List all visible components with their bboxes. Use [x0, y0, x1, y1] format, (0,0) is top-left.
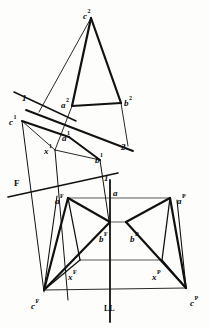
- edge-aF-bF: [68, 198, 110, 222]
- label-b1-base: b: [95, 155, 100, 165]
- label-bF-superscript: F: [104, 231, 108, 237]
- label-c2-superscript: 2: [87, 8, 90, 14]
- label-c1: c1: [9, 112, 16, 128]
- label-a-plain-base: a: [113, 188, 118, 198]
- label-a-plain: a: [113, 183, 118, 199]
- label-c1-superscript: 1: [13, 114, 16, 120]
- reference-lines-group: [8, 92, 133, 322]
- label-xP: xP: [152, 267, 161, 283]
- label-x1-base: x: [44, 146, 49, 156]
- edge-aF-xF: [68, 198, 80, 260]
- label-a1-superscript: 1: [67, 130, 70, 136]
- label-F-trace-base: F: [14, 178, 20, 188]
- label-aP-base: a: [177, 196, 182, 206]
- label-bP-base: b: [130, 234, 135, 244]
- construction-base-F-P: [44, 288, 186, 290]
- label-one-upper: 1: [22, 88, 27, 104]
- label-aF: aF: [55, 191, 64, 207]
- label-b2-superscript: 2: [129, 95, 132, 101]
- label-LL: LL: [104, 298, 115, 314]
- label-xP-superscript: P: [157, 269, 161, 275]
- label-xF-base: x: [68, 272, 73, 282]
- edge-aP-xP: [162, 198, 170, 260]
- label-bF: bF: [99, 229, 108, 245]
- label-b2: b2: [124, 93, 132, 109]
- label-cP-superscript: P: [194, 295, 198, 301]
- view-1-group: [22, 121, 100, 160]
- label-F-trace: F: [14, 173, 20, 189]
- label-LL-base: LL: [104, 304, 115, 313]
- figure-drawing-canvas: [0, 0, 210, 327]
- projector-c1-cF: [22, 121, 44, 292]
- label-two: 2: [121, 137, 126, 153]
- label-x1: x1: [44, 141, 52, 157]
- label-a2-superscript: 2: [66, 97, 69, 103]
- label-one-lower-base: 1: [104, 173, 109, 183]
- edge-c2-b2: [91, 18, 121, 103]
- label-c2: c2: [83, 6, 90, 22]
- edge-aF-left-cF: [44, 196, 57, 290]
- label-bP-superscript: P: [135, 231, 139, 237]
- label-one-upper-base: 1: [22, 93, 27, 103]
- label-aP: aP: [177, 191, 186, 207]
- label-cF: cF: [31, 296, 39, 312]
- label-b1: b1: [95, 150, 103, 166]
- label-xP-base: x: [152, 272, 157, 282]
- label-x1-superscript: 1: [49, 143, 52, 149]
- edge-aP-bP: [126, 198, 170, 222]
- label-two-base: 2: [121, 142, 126, 152]
- descriptive-geometry-figure: c2a2b21c1a1x1b12F1aaFaPbFbPxFxPcFcPLL: [0, 0, 210, 327]
- view-2-group: [39, 18, 128, 150]
- label-cP: cP: [190, 293, 198, 309]
- label-a1: a1: [62, 128, 70, 144]
- edge-a2-b2: [72, 103, 121, 106]
- label-a2: a2: [61, 95, 69, 111]
- label-xF-superscript: F: [73, 269, 77, 275]
- projector-lines-group: [22, 121, 110, 300]
- label-b2-base: b: [124, 98, 129, 108]
- label-aP-superscript: P: [182, 193, 186, 199]
- label-b1-superscript: 1: [100, 152, 103, 158]
- label-xF: xF: [68, 267, 77, 283]
- label-aF-base: a: [55, 196, 60, 206]
- label-bP: bP: [130, 229, 139, 245]
- label-bF-base: b: [99, 234, 104, 244]
- label-a1-base: a: [62, 133, 67, 143]
- label-cF-superscript: F: [35, 298, 39, 304]
- edge-c2-a2: [72, 18, 91, 106]
- label-a2-base: a: [61, 100, 66, 110]
- label-one-lower: 1: [104, 168, 109, 184]
- label-aF-superscript: F: [60, 193, 64, 199]
